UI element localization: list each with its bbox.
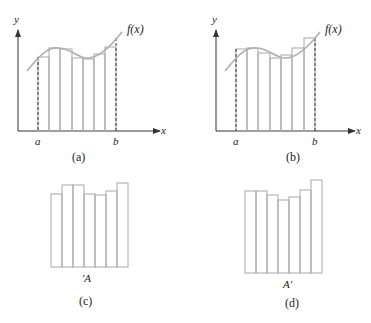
- panel-c: 'A (c): [51, 183, 128, 308]
- rectangles: [51, 183, 128, 267]
- rectangles: [236, 38, 315, 131]
- area-label: A': [282, 278, 293, 290]
- caption-b: (b): [286, 150, 300, 164]
- rectangles: [245, 180, 322, 273]
- y-label: y: [13, 13, 19, 25]
- a-label: a: [233, 135, 239, 147]
- function-label: f(x): [325, 22, 342, 36]
- y-label: y: [211, 13, 217, 25]
- panel-a: y x a b f(x) (a): [13, 13, 166, 164]
- caption-d: (d): [285, 296, 299, 310]
- function-curve: [27, 32, 122, 71]
- caption-a: (a): [72, 150, 85, 164]
- x-label: x: [160, 124, 166, 136]
- x-label: x: [355, 124, 361, 136]
- area-label: 'A: [82, 272, 91, 284]
- function-label: f(x): [127, 22, 144, 36]
- riemann-sum-figure: y x a b f(x) (a) y x a b f(x) (b): [0, 0, 371, 323]
- caption-c: (c): [79, 294, 92, 308]
- a-label: a: [35, 135, 41, 147]
- panel-b: y x a b f(x) (b): [211, 13, 361, 164]
- b-label: b: [312, 135, 318, 147]
- b-label: b: [113, 135, 119, 147]
- rectangles: [38, 47, 116, 131]
- panel-d: A' (d): [245, 180, 322, 310]
